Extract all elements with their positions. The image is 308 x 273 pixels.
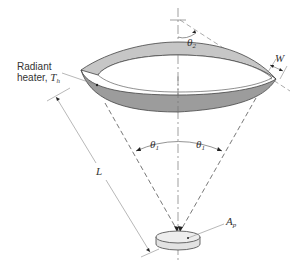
length-dim-line-upper (56, 97, 96, 163)
view-cone-left (105, 103, 177, 230)
heater-temp-sub: h (56, 77, 60, 85)
theta1-left-sub: 1 (155, 144, 159, 152)
length-ext-bottom (141, 249, 159, 257)
radiant-heater-diagram: Radiant heater, Th θ2 W θ1 θ1 L Ap (0, 0, 308, 273)
heater-leader-line (62, 73, 97, 85)
theta1-arrow-left (136, 147, 141, 151)
heater-label-line2: heater, Th (17, 72, 60, 87)
theta1-right-label: θ1 (196, 139, 205, 154)
heater-label-text: heater, (17, 72, 50, 83)
width-label: W (275, 53, 284, 64)
heater-label: Radiant heater, Th (17, 61, 60, 87)
length-label: L (96, 166, 102, 177)
theta1-arrow-right (217, 147, 222, 151)
theta2-sub: 2 (192, 42, 196, 50)
disk-top (156, 231, 200, 243)
theta1-right-sub: 1 (201, 144, 205, 152)
area-leader-line (188, 224, 224, 238)
area-sub: p (233, 221, 237, 229)
theta1-left-label: θ1 (150, 139, 159, 154)
view-cone-right (181, 98, 256, 230)
area-leader-dot (187, 237, 189, 239)
area-label: Ap (226, 216, 236, 231)
width-arrow-right (279, 68, 283, 71)
area-symbol: A (226, 215, 233, 227)
diagram-svg (0, 0, 308, 273)
theta1-arc (136, 142, 222, 152)
theta2-label: θ2 (187, 37, 196, 52)
width-ext-line-2 (280, 66, 287, 79)
length-dim-line-lower (106, 180, 150, 252)
heater-temp-symbol: Th (50, 71, 60, 83)
heater-leader-dot (96, 84, 98, 86)
theta2-arrowhead (192, 30, 196, 33)
